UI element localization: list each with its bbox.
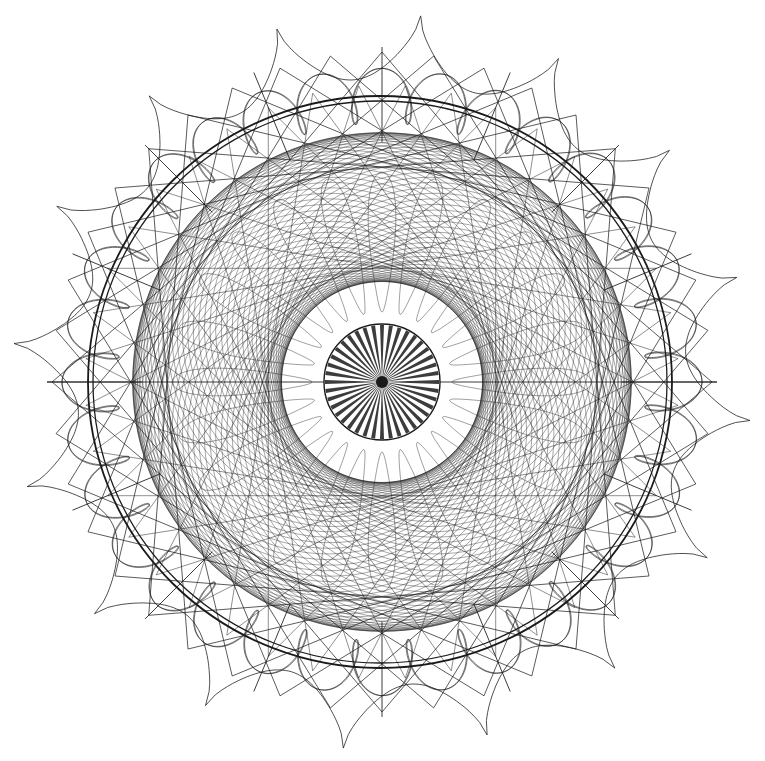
center-starburst-disk bbox=[324, 324, 440, 440]
spirograph-artwork bbox=[0, 0, 765, 761]
center-dot bbox=[376, 376, 388, 388]
spirograph-figure bbox=[0, 0, 765, 761]
